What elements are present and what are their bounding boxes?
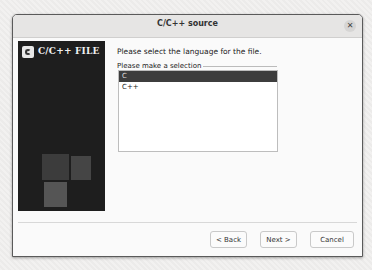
wizard-side-panel: C/C++ FILE (18, 41, 105, 211)
button-separator (18, 222, 357, 223)
back-button[interactable]: < Back (210, 231, 247, 248)
title-bar[interactable]: C/C++ source ✕ (13, 15, 362, 38)
side-panel-title: C/C++ FILE (38, 46, 100, 56)
close-icon[interactable]: ✕ (344, 20, 356, 32)
language-listbox[interactable]: C C++ (118, 70, 278, 152)
cancel-button[interactable]: Cancel (310, 231, 354, 248)
instruction-text: Please select the language for the file. (117, 47, 262, 56)
list-item-cpp[interactable]: C++ (119, 82, 277, 93)
cpp-source-dialog: C/C++ source ✕ C/C++ FILE Please select … (12, 14, 363, 257)
next-button[interactable]: Next > (260, 231, 297, 248)
c-file-logo-icon (22, 46, 34, 58)
decorative-cube-icon (44, 182, 67, 207)
list-item-c[interactable]: C (119, 71, 277, 82)
selection-group-label: Please make a selection (117, 62, 203, 70)
window-title: C/C++ source (13, 19, 362, 28)
decorative-cube-icon (42, 154, 69, 180)
decorative-cube-icon (71, 156, 91, 180)
